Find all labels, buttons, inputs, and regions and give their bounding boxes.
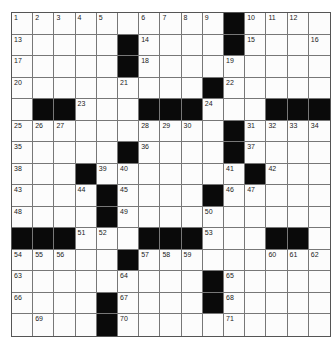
grid-cell[interactable] (309, 56, 330, 78)
grid-cell[interactable]: 13 (12, 35, 33, 57)
grid-cell[interactable] (245, 228, 266, 250)
grid-cell[interactable] (182, 164, 203, 186)
grid-cell[interactable] (309, 78, 330, 100)
grid-cell[interactable] (76, 142, 97, 164)
grid-cell[interactable]: 53 (203, 228, 224, 250)
grid-cell[interactable] (160, 142, 181, 164)
grid-cell[interactable] (224, 228, 245, 250)
grid-cell[interactable] (97, 121, 118, 143)
grid-cell[interactable] (203, 35, 224, 57)
grid-cell[interactable]: 34 (309, 121, 330, 143)
grid-cell[interactable]: 66 (12, 293, 33, 315)
grid-cell[interactable] (288, 271, 309, 293)
grid-cell[interactable]: 42 (266, 164, 287, 186)
grid-cell[interactable]: 69 (33, 314, 54, 336)
grid-cell[interactable]: 64 (118, 271, 139, 293)
grid-cell[interactable] (160, 293, 181, 315)
grid-cell[interactable]: 31 (245, 121, 266, 143)
grid-cell[interactable] (33, 164, 54, 186)
grid-cell[interactable]: 59 (182, 250, 203, 272)
grid-cell[interactable] (309, 13, 330, 35)
grid-cell[interactable] (54, 164, 75, 186)
grid-cell[interactable] (160, 314, 181, 336)
grid-cell[interactable] (139, 207, 160, 229)
grid-cell[interactable]: 68 (224, 293, 245, 315)
grid-cell[interactable] (182, 207, 203, 229)
grid-cell[interactable] (203, 250, 224, 272)
grid-cell[interactable] (182, 185, 203, 207)
grid-cell[interactable]: 8 (182, 13, 203, 35)
grid-cell[interactable] (160, 78, 181, 100)
grid-cell[interactable]: 48 (12, 207, 33, 229)
grid-cell[interactable] (203, 164, 224, 186)
grid-cell[interactable] (182, 271, 203, 293)
grid-cell[interactable]: 20 (12, 78, 33, 100)
grid-cell[interactable]: 10 (245, 13, 266, 35)
grid-cell[interactable]: 43 (12, 185, 33, 207)
grid-cell[interactable]: 7 (160, 13, 181, 35)
grid-cell[interactable] (76, 35, 97, 57)
grid-cell[interactable] (182, 35, 203, 57)
grid-cell[interactable] (54, 293, 75, 315)
grid-cell[interactable] (76, 207, 97, 229)
grid-cell[interactable] (266, 314, 287, 336)
grid-cell[interactable] (266, 271, 287, 293)
grid-cell[interactable]: 41 (224, 164, 245, 186)
grid-cell[interactable]: 35 (12, 142, 33, 164)
grid-cell[interactable]: 27 (54, 121, 75, 143)
grid-cell[interactable]: 9 (203, 13, 224, 35)
grid-cell[interactable]: 54 (12, 250, 33, 272)
grid-cell[interactable]: 65 (224, 271, 245, 293)
grid-cell[interactable] (288, 164, 309, 186)
grid-cell[interactable] (266, 142, 287, 164)
grid-cell[interactable] (76, 293, 97, 315)
grid-cell[interactable]: 32 (266, 121, 287, 143)
grid-cell[interactable] (245, 56, 266, 78)
grid-cell[interactable]: 46 (224, 185, 245, 207)
grid-cell[interactable]: 29 (160, 121, 181, 143)
grid-cell[interactable] (139, 314, 160, 336)
grid-cell[interactable] (33, 142, 54, 164)
grid-cell[interactable]: 60 (266, 250, 287, 272)
grid-cell[interactable]: 70 (118, 314, 139, 336)
grid-cell[interactable] (118, 99, 139, 121)
grid-cell[interactable] (288, 142, 309, 164)
grid-cell[interactable]: 11 (266, 13, 287, 35)
grid-cell[interactable] (12, 99, 33, 121)
grid-cell[interactable]: 16 (309, 35, 330, 57)
grid-cell[interactable]: 39 (97, 164, 118, 186)
grid-cell[interactable] (54, 78, 75, 100)
grid-cell[interactable] (309, 185, 330, 207)
grid-cell[interactable]: 51 (76, 228, 97, 250)
grid-cell[interactable] (182, 78, 203, 100)
grid-cell[interactable] (288, 207, 309, 229)
grid-cell[interactable] (288, 185, 309, 207)
grid-cell[interactable] (288, 314, 309, 336)
grid-cell[interactable] (33, 78, 54, 100)
grid-cell[interactable] (266, 35, 287, 57)
grid-cell[interactable] (33, 35, 54, 57)
grid-cell[interactable] (118, 121, 139, 143)
grid-cell[interactable]: 44 (76, 185, 97, 207)
grid-cell[interactable]: 24 (203, 99, 224, 121)
grid-cell[interactable] (97, 99, 118, 121)
grid-cell[interactable]: 22 (224, 78, 245, 100)
grid-cell[interactable]: 67 (118, 293, 139, 315)
grid-cell[interactable] (97, 142, 118, 164)
grid-cell[interactable]: 56 (54, 250, 75, 272)
grid-cell[interactable] (54, 271, 75, 293)
grid-cell[interactable] (182, 56, 203, 78)
grid-cell[interactable] (160, 164, 181, 186)
grid-cell[interactable]: 71 (224, 314, 245, 336)
grid-cell[interactable] (309, 207, 330, 229)
grid-cell[interactable]: 30 (182, 121, 203, 143)
grid-cell[interactable]: 40 (118, 164, 139, 186)
grid-cell[interactable] (139, 185, 160, 207)
grid-cell[interactable] (76, 56, 97, 78)
grid-cell[interactable]: 47 (245, 185, 266, 207)
grid-cell[interactable] (33, 293, 54, 315)
grid-cell[interactable]: 37 (245, 142, 266, 164)
grid-cell[interactable] (54, 314, 75, 336)
grid-cell[interactable] (54, 142, 75, 164)
grid-cell[interactable] (266, 293, 287, 315)
